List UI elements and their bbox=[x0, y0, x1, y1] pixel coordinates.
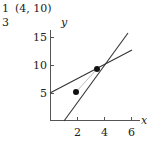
x-tick-label-2: 2 bbox=[74, 127, 81, 138]
y-tick-label-15: 15 bbox=[33, 32, 47, 43]
y-tick-label-5: 5 bbox=[40, 88, 47, 99]
x-tick-label-6: 6 bbox=[128, 127, 135, 138]
x-tick-label-4: 4 bbox=[101, 127, 108, 138]
shallow-line bbox=[50, 50, 132, 93]
y-axis-label: y bbox=[61, 17, 67, 28]
y-tick-label-10: 10 bbox=[33, 60, 47, 71]
data-point bbox=[94, 66, 100, 72]
data-point bbox=[73, 89, 79, 95]
steep-line bbox=[64, 33, 128, 121]
x-axis-label: x bbox=[141, 115, 147, 126]
